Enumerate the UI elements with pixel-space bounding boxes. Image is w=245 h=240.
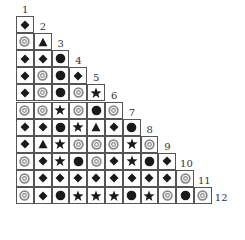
grid-cell <box>141 187 159 204</box>
column-label: 3 <box>58 39 64 49</box>
diamond-icon <box>109 156 119 166</box>
grid-cell <box>34 119 52 136</box>
filled-circle-icon <box>180 190 191 201</box>
triangle-icon <box>91 122 101 132</box>
diamond-icon <box>109 173 119 183</box>
grid-cell <box>34 170 52 187</box>
ring-icon <box>19 156 30 167</box>
star-icon <box>90 87 102 99</box>
grid-cell <box>16 102 34 119</box>
grid-cell <box>69 102 87 119</box>
filled-circle-icon <box>55 122 66 133</box>
grid-cell <box>158 187 176 204</box>
diamond-icon <box>20 139 30 149</box>
filled-circle-icon <box>55 190 66 201</box>
diamond-icon <box>20 20 30 30</box>
grid-cell <box>52 102 70 119</box>
diamond-icon <box>20 88 30 98</box>
grid-cell <box>123 170 141 187</box>
column-label: 5 <box>93 73 99 83</box>
grid-cell <box>16 84 34 101</box>
grid-cell <box>52 119 70 136</box>
grid-cell <box>69 84 87 101</box>
grid-cell <box>69 136 87 153</box>
grid-cell <box>34 84 52 101</box>
column-label: 10 <box>180 159 193 169</box>
column-label: 6 <box>111 91 117 101</box>
ring-icon <box>37 105 48 116</box>
diamond-icon <box>38 191 48 201</box>
filled-circle-icon <box>126 190 137 201</box>
grid-cell <box>158 153 176 170</box>
diamond-icon <box>144 173 154 183</box>
diamond-icon <box>127 173 137 183</box>
ring-icon <box>108 139 119 150</box>
diamond-icon <box>20 71 30 81</box>
grid-cell <box>123 136 141 153</box>
grid-cell <box>141 170 159 187</box>
grid-cell <box>69 187 87 204</box>
triangle-icon <box>38 139 48 149</box>
diamond-icon <box>162 156 172 166</box>
ring-icon <box>108 105 119 116</box>
diamond-icon <box>38 173 48 183</box>
grid-cell <box>176 170 194 187</box>
grid-cell <box>69 119 87 136</box>
ring-icon <box>162 190 173 201</box>
grid-cell <box>176 187 194 204</box>
grid-cell <box>16 187 34 204</box>
star-icon <box>90 190 102 202</box>
ring-icon <box>180 173 191 184</box>
diamond-icon <box>73 71 83 81</box>
grid-cell <box>87 136 105 153</box>
star-icon <box>54 104 66 116</box>
grid-cell <box>16 170 34 187</box>
grid-cell <box>16 50 34 67</box>
grid-cell <box>69 170 87 187</box>
ring-icon <box>37 70 48 81</box>
ring-icon <box>197 190 208 201</box>
grid-cell <box>52 153 70 170</box>
grid-cell <box>34 136 52 153</box>
grid-cell <box>16 153 34 170</box>
ring-icon <box>144 139 155 150</box>
column-label: 2 <box>40 22 46 32</box>
filled-circle-icon <box>55 87 66 98</box>
column-label: 8 <box>147 125 153 135</box>
grid-cell <box>34 102 52 119</box>
grid-cell <box>16 33 34 50</box>
grid-cell <box>87 119 105 136</box>
grid-cell <box>34 187 52 204</box>
grid-cell <box>123 153 141 170</box>
ring-icon <box>19 36 30 47</box>
filled-circle-icon <box>144 156 155 167</box>
grid-cell <box>141 153 159 170</box>
grid-cell <box>34 33 52 50</box>
star-icon <box>143 190 155 202</box>
grid-cell <box>52 50 70 67</box>
grid-cell <box>87 153 105 170</box>
grid-cell <box>105 136 123 153</box>
grid-cell <box>34 153 52 170</box>
ring-icon <box>19 173 30 184</box>
diamond-icon <box>55 173 65 183</box>
grid-cell <box>52 187 70 204</box>
grid-cell <box>52 67 70 84</box>
star-icon <box>54 155 66 167</box>
grid-cell <box>34 67 52 84</box>
filled-circle-icon <box>126 122 137 133</box>
grid-cell <box>105 170 123 187</box>
star-icon <box>126 138 138 150</box>
grid-cell <box>141 136 159 153</box>
diamond-icon <box>38 156 48 166</box>
ring-icon <box>19 105 30 116</box>
diamond-icon <box>109 122 119 132</box>
diamond-icon <box>20 54 30 64</box>
grid-cell <box>87 84 105 101</box>
column-label: 4 <box>75 56 81 66</box>
ring-icon <box>91 139 102 150</box>
grid-cell <box>16 136 34 153</box>
grid-cell <box>105 119 123 136</box>
ring-icon <box>91 156 102 167</box>
star-icon <box>126 155 138 167</box>
